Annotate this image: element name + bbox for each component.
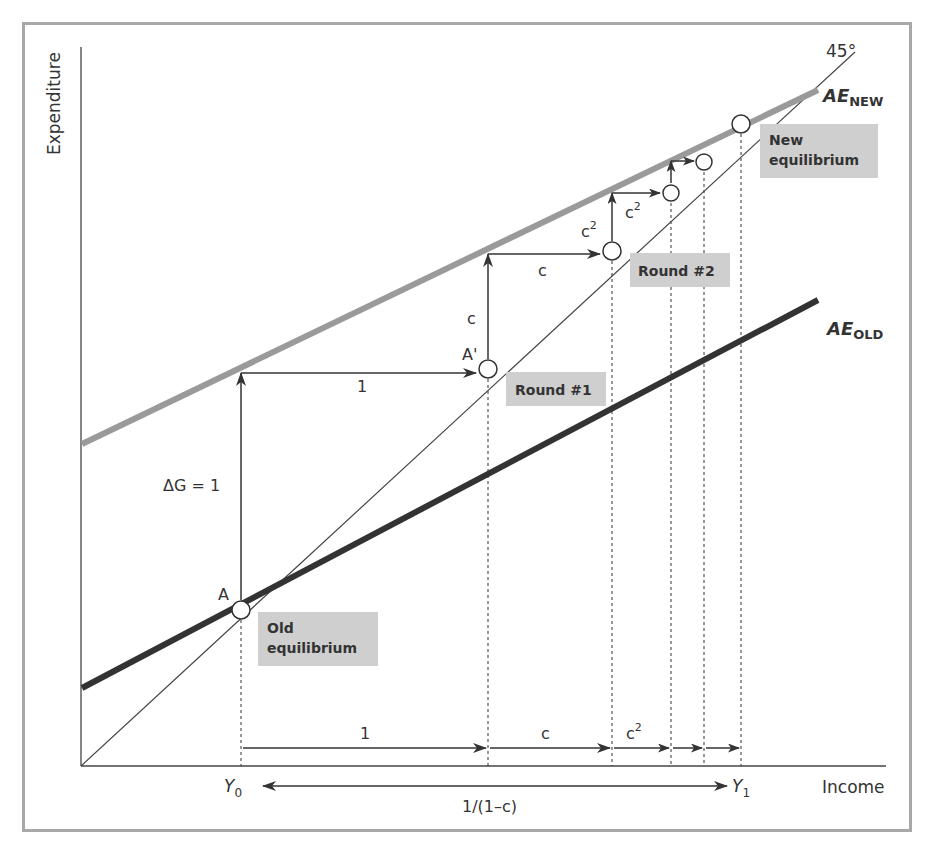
step-c-horizontal-label: c bbox=[538, 261, 547, 280]
bottom-c2-label: c2 bbox=[626, 721, 642, 743]
new-equilibrium-label-2: equilibrium bbox=[769, 152, 859, 168]
old-equilibrium-label-1: Old bbox=[267, 620, 294, 636]
point-round3 bbox=[663, 185, 679, 201]
y1-label: Y1 bbox=[732, 776, 750, 800]
new-equilibrium-label-1: New bbox=[769, 132, 803, 148]
step-1-label: 1 bbox=[357, 377, 367, 396]
bottom-1-label: 1 bbox=[360, 724, 370, 743]
round1-label: Round #1 bbox=[515, 382, 592, 398]
point-a-prime-label: A' bbox=[462, 345, 477, 364]
multiplier-staircase bbox=[241, 161, 694, 600]
y0-label: Y0 bbox=[224, 776, 242, 800]
step-c2-vertical-label: c2 bbox=[581, 219, 597, 241]
point-round4 bbox=[696, 154, 712, 170]
step-c2-horizontal-label: c2 bbox=[625, 200, 641, 222]
y-axis-label: Expenditure bbox=[44, 52, 64, 155]
ae-new-label: AENEW bbox=[821, 85, 883, 109]
multiplier-span-label: 1/(1–c) bbox=[462, 797, 517, 816]
line-45-degree bbox=[81, 52, 855, 766]
point-a-label: A bbox=[218, 585, 229, 604]
point-a bbox=[232, 601, 250, 619]
old-equilibrium-label-2: equilibrium bbox=[267, 640, 357, 656]
line-45-label: 45° bbox=[826, 41, 856, 61]
delta-g-label: ΔG = 1 bbox=[163, 476, 220, 495]
point-new-equilibrium bbox=[732, 115, 750, 133]
dotted-guides bbox=[241, 134, 741, 766]
x-axis-label: Income bbox=[822, 777, 885, 797]
point-a-prime bbox=[479, 360, 497, 378]
round2-label: Round #2 bbox=[638, 263, 715, 279]
point-round2 bbox=[603, 242, 621, 260]
keynesian-cross-diagram: Expenditure Income 45° AENEW AEOLD A A' … bbox=[0, 0, 931, 850]
bottom-c-label: c bbox=[541, 724, 550, 743]
ae-old-label: AEOLD bbox=[825, 318, 884, 342]
step-c-vertical-label: c bbox=[467, 309, 476, 328]
equilibrium-points bbox=[232, 115, 750, 619]
